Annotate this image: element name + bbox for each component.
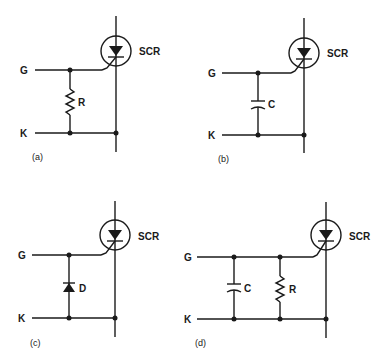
caption-c: (c) [30, 338, 41, 348]
cathode-label: K [184, 314, 192, 325]
capacitor-icon [251, 73, 265, 135]
resistor-label: R [78, 97, 86, 108]
resistor-icon [66, 70, 74, 133]
caption-a: (a) [32, 152, 43, 162]
scr-label: SCR [139, 46, 161, 57]
scr-gate-circuits-diagram: SCR G K R (a) SCR G K [0, 0, 384, 364]
panel-d: SCR G K C R (d) [184, 202, 371, 348]
resistor-label: R [289, 284, 297, 295]
gate-label: G [208, 68, 216, 79]
capacitor-label: C [244, 283, 251, 294]
caption-b: (b) [218, 154, 229, 164]
scr-label: SCR [349, 231, 371, 242]
panel-b: SCR G K C (b) [208, 18, 349, 164]
diode-icon [63, 255, 75, 318]
cathode-label: K [208, 130, 216, 141]
gate-label: G [184, 252, 192, 263]
panel-a: SCR G K R (a) [20, 16, 161, 162]
panel-c: SCR G K D (c) [18, 201, 160, 348]
gate-label: G [18, 250, 26, 261]
cathode-label: K [18, 313, 26, 324]
capacitor-icon [227, 257, 241, 319]
scr-label: SCR [327, 48, 349, 59]
cathode-label: K [20, 128, 28, 139]
resistor-icon [276, 257, 284, 319]
capacitor-label: C [268, 99, 275, 110]
caption-d: (d) [195, 338, 206, 348]
diode-label: D [79, 283, 86, 294]
gate-label: G [20, 65, 28, 76]
scr-label: SCR [138, 231, 160, 242]
